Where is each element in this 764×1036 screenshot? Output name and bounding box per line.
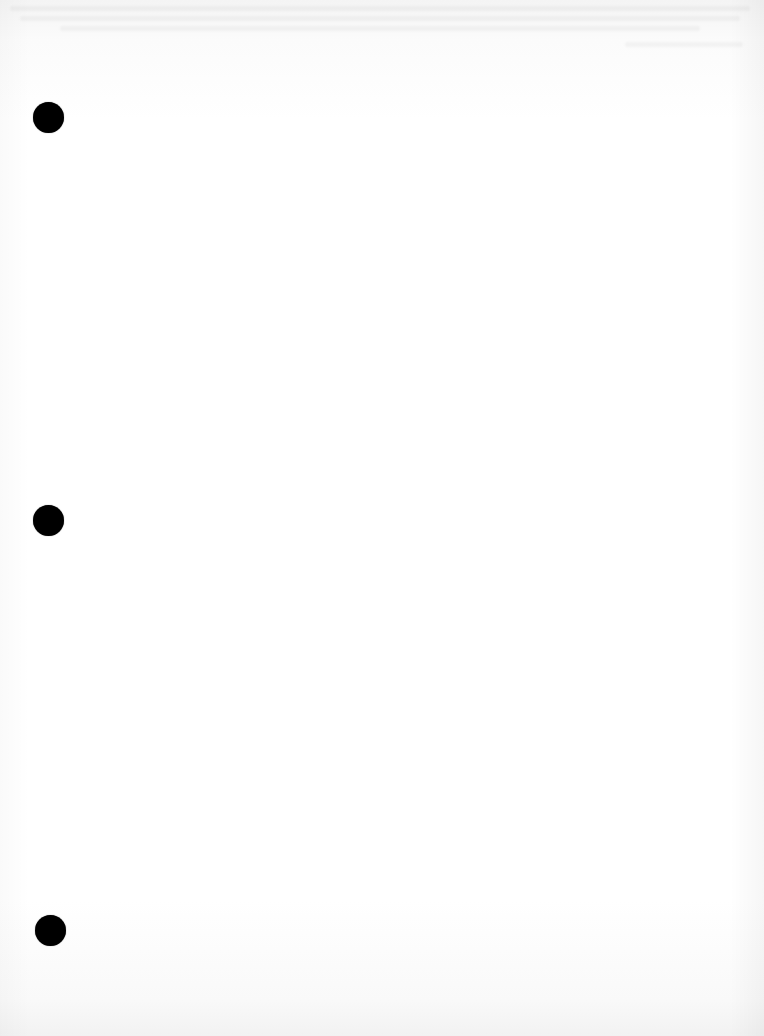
show-through-line (60, 26, 700, 31)
punch-hole-top (33, 102, 64, 133)
show-through-line (625, 42, 743, 47)
show-through-line (20, 16, 740, 21)
show-through-text-region (0, 0, 764, 50)
punch-hole-bottom (35, 915, 66, 946)
show-through-line (10, 6, 750, 11)
punch-hole-middle (33, 505, 64, 536)
scanned-page (0, 0, 764, 1036)
